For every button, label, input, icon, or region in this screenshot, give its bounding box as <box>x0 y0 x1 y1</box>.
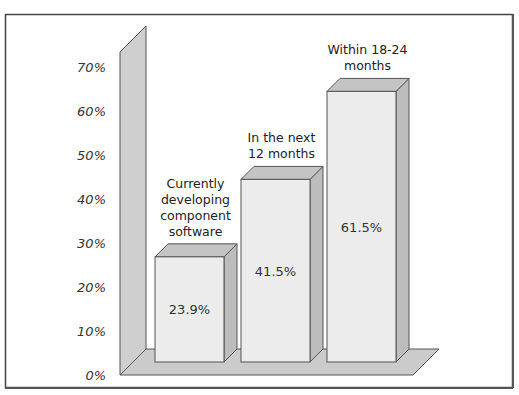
y-tick-label: 20% <box>77 280 106 295</box>
y-tick-label: 40% <box>77 192 106 207</box>
y-tick-label: 60% <box>77 104 106 119</box>
bar-category-label: developing <box>161 192 230 207</box>
y-tick-label: 50% <box>77 148 106 163</box>
bar-value-label: 41.5% <box>255 264 296 279</box>
bar-top <box>155 244 237 257</box>
bar-top <box>241 166 323 179</box>
y-tick-label: 10% <box>77 324 106 339</box>
bar-side <box>224 244 237 362</box>
y-tick-label: 0% <box>85 368 106 383</box>
bar-category-label: component <box>160 208 231 223</box>
bar-side <box>396 78 409 362</box>
bar-category-label: In the next <box>248 130 316 145</box>
bar: 23.9%Currentlydevelopingcomponentsoftwar… <box>155 176 237 362</box>
y-tick-label: 70% <box>77 60 106 75</box>
bar-category-label: 12 months <box>248 146 315 161</box>
bar-chart: 0%10%20%30%40%50%60%70% 23.9%Currentlyde… <box>0 0 519 395</box>
y-tick-label: 30% <box>77 236 106 251</box>
bar: 61.5%Within 18-24months <box>327 42 409 362</box>
bar-category-label: Within 18-24 <box>327 42 407 57</box>
bar-category-label: months <box>344 58 391 73</box>
bar-value-label: 61.5% <box>341 220 382 235</box>
bar-category-label: Currently <box>167 176 225 191</box>
bar-value-label: 23.9% <box>169 302 210 317</box>
bar-category-label: software <box>169 224 223 239</box>
bar-side <box>310 166 323 362</box>
bar-top <box>327 78 409 91</box>
wall-panel <box>120 26 146 375</box>
back-wall <box>120 26 146 375</box>
